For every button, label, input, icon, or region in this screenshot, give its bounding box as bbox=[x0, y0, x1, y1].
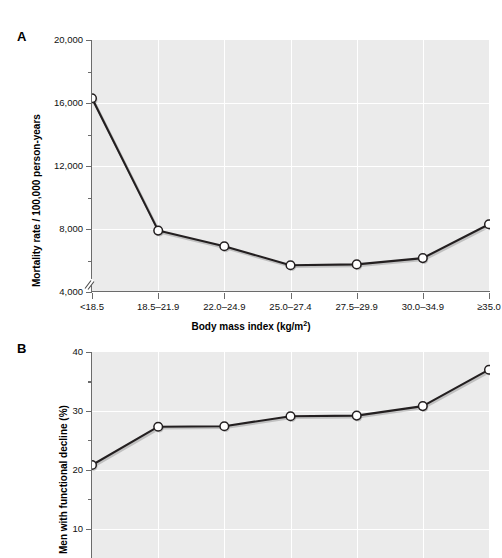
x-axis-title-a-text: Body mass index (kg/m bbox=[192, 321, 304, 332]
y-axis-title-a: Mortality rate / 100,000 person-years bbox=[31, 114, 42, 287]
y-tick-major bbox=[86, 40, 92, 41]
y-tick-minor bbox=[88, 198, 92, 199]
y-tick-label: 20,000 bbox=[0, 35, 83, 45]
x-axis-title-a-tail: ) bbox=[307, 321, 310, 332]
data-point-marker bbox=[220, 422, 229, 431]
y-tick-major bbox=[86, 470, 92, 471]
y-tick-label: 20 bbox=[0, 465, 83, 475]
y-axis-title-b: Men with functional decline (%) bbox=[58, 405, 69, 554]
data-point-marker bbox=[352, 260, 361, 269]
x-tick-label: 30.0–34.9 bbox=[402, 302, 444, 312]
x-tick-label: ≥35.0 bbox=[477, 302, 501, 312]
x-tick bbox=[291, 293, 292, 299]
data-point-marker bbox=[286, 261, 295, 270]
data-point-marker bbox=[485, 365, 490, 374]
data-point-marker bbox=[286, 412, 295, 421]
y-tick-label: 30 bbox=[0, 406, 83, 416]
data-point-marker bbox=[485, 220, 490, 229]
y-tick-label: 10 bbox=[0, 524, 83, 534]
x-tick bbox=[357, 293, 358, 299]
y-tick-minor bbox=[88, 499, 92, 500]
data-point-marker bbox=[419, 402, 428, 411]
plot-area-a bbox=[92, 40, 490, 292]
data-point-marker bbox=[352, 411, 361, 420]
y-tick-minor bbox=[88, 72, 92, 73]
plot-area-b bbox=[92, 352, 490, 558]
y-tick-label: 16,000 bbox=[0, 98, 83, 108]
y-tick-label: 40 bbox=[0, 347, 83, 357]
data-point-marker bbox=[154, 226, 163, 235]
y-tick-label: 4,000 bbox=[0, 287, 83, 297]
axis-break-icon bbox=[84, 278, 98, 292]
data-point-marker bbox=[220, 242, 229, 251]
y-tick-minor bbox=[88, 381, 92, 382]
y-tick-major bbox=[86, 411, 92, 412]
data-point-marker bbox=[419, 254, 428, 263]
y-tick-minor bbox=[88, 440, 92, 441]
x-tick bbox=[423, 293, 424, 299]
y-tick-major bbox=[86, 103, 92, 104]
data-point-marker bbox=[92, 94, 96, 103]
y-tick-major bbox=[86, 529, 92, 530]
y-tick-major bbox=[86, 166, 92, 167]
x-tick bbox=[92, 293, 93, 299]
x-tick bbox=[489, 293, 490, 299]
data-point-marker bbox=[92, 461, 96, 470]
panel-a: A 20,00016,00012,0008,0004,000 <18.518.5… bbox=[0, 0, 502, 336]
series-line-b bbox=[92, 352, 490, 558]
y-tick-major bbox=[86, 352, 92, 353]
x-tick-label: <18.5 bbox=[80, 302, 104, 312]
x-tick bbox=[158, 293, 159, 299]
y-tick-major bbox=[86, 229, 92, 230]
x-tick-label: 22.0–24.9 bbox=[203, 302, 245, 312]
x-tick-label: 25.0–27.4 bbox=[269, 302, 311, 312]
figure-container: A 20,00016,00012,0008,0004,000 <18.518.5… bbox=[0, 0, 502, 558]
data-point-marker bbox=[154, 422, 163, 431]
x-axis-title-a: Body mass index (kg/m2) bbox=[0, 318, 502, 332]
panel-b: B 40302010 Men with functional decline (… bbox=[0, 336, 502, 558]
data-line bbox=[92, 98, 489, 265]
y-axis-b bbox=[91, 352, 92, 558]
x-tick-label: 18.5–21.9 bbox=[137, 302, 179, 312]
series-line-a bbox=[92, 40, 490, 292]
x-tick bbox=[224, 293, 225, 299]
y-tick-minor bbox=[88, 135, 92, 136]
y-tick-minor bbox=[88, 261, 92, 262]
x-tick-label: 27.5–29.9 bbox=[336, 302, 378, 312]
